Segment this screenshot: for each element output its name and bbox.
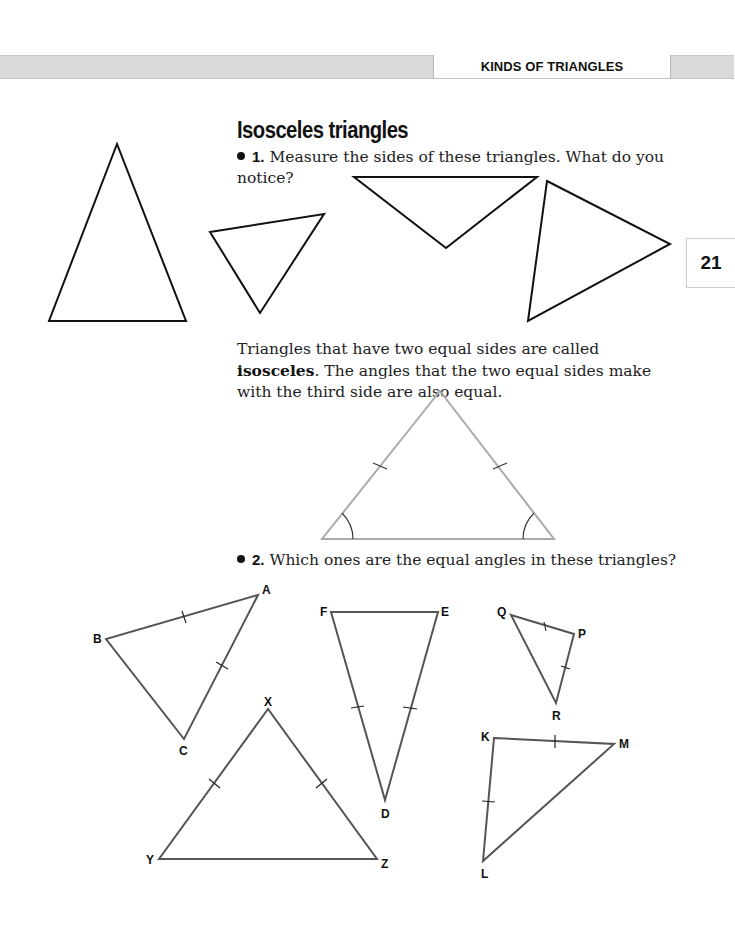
equal-angle-arc [523,513,534,539]
q1-triangle-3 [354,177,537,248]
isosceles-diagram [322,391,554,539]
triangle-abc-shape [106,595,258,739]
vertex-label-p: P [578,627,586,641]
triangle-def: F E D [320,605,449,821]
q1-triangle-4 [528,181,670,321]
triangle-pqr-shape [511,615,574,703]
triangle-def-shape [331,612,438,800]
vertex-label-e: E [441,605,449,619]
vertex-label-m: M [619,737,629,751]
isosceles-diagram-triangle [322,391,554,539]
triangle-pqr: Q P R [497,605,586,723]
vertex-label-f: F [320,605,327,619]
triangle-klm-shape [483,738,614,861]
equal-side-tick [482,801,495,802]
vertex-label-d: D [381,807,390,821]
triangle-klm: K M L [481,730,629,881]
triangle-xyz-shape [159,709,377,859]
q1-triangle-1 [49,144,186,321]
vertex-label-l: L [481,867,488,881]
triangle-xyz: X Y Z [146,695,388,871]
vertex-label-z: Z [381,857,388,871]
equal-side-tick [373,463,387,469]
vertex-label-c: C [179,744,188,758]
equal-angle-arc [342,513,353,539]
vertex-label-k: K [481,730,490,744]
vertex-label-y: Y [146,853,154,867]
vertex-label-a: A [262,583,271,597]
vertex-label-b: B [93,632,102,646]
q1-triangle-2 [210,214,324,313]
vertex-label-r: R [552,709,561,723]
vertex-label-x: X [264,695,272,709]
triangle-abc: A B C [93,583,271,758]
vertex-label-q: Q [497,605,506,619]
